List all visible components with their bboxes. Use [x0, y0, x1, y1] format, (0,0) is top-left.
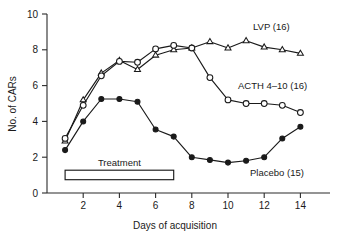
x-tick-label-4: 4 — [117, 200, 123, 211]
y-tick-label-2: 2 — [32, 152, 38, 163]
x-tick-label-12: 12 — [259, 200, 271, 211]
y-tick-label-0: 0 — [32, 188, 38, 199]
treatment-bar — [65, 170, 174, 180]
series-label-acth: ACTH 4–10 (16) — [238, 80, 307, 91]
series-label-lvp: LVP (16) — [253, 21, 290, 32]
chart-background — [0, 0, 338, 240]
y-tick-label-4: 4 — [32, 116, 38, 127]
chart-figure: 0 2 4 6 8 10 2 4 6 8 10 12 14 Days of ac… — [0, 0, 338, 240]
x-axis-title: Days of acquisition — [133, 220, 217, 231]
y-tick-label-10: 10 — [27, 9, 39, 20]
treatment-label: Treatment — [98, 157, 141, 168]
line-chart: 0 2 4 6 8 10 2 4 6 8 10 12 14 Days of ac… — [0, 0, 338, 240]
y-axis-title: No. of CARs — [7, 76, 18, 132]
y-tick-label-8: 8 — [32, 44, 38, 55]
series-label-placebo: Placebo (15) — [250, 167, 304, 178]
x-tick-label-6: 6 — [153, 200, 159, 211]
x-tick-label-8: 8 — [189, 200, 195, 211]
x-tick-label-10: 10 — [222, 200, 234, 211]
y-tick-label-6: 6 — [32, 80, 38, 91]
x-tick-label-14: 14 — [295, 200, 307, 211]
x-tick-label-2: 2 — [80, 200, 86, 211]
